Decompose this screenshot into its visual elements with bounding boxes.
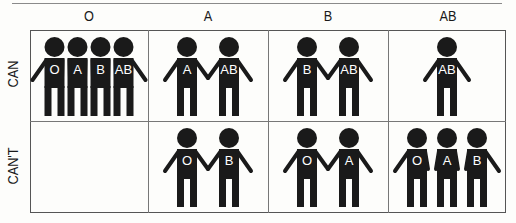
- person-figure: AB: [328, 37, 371, 116]
- blood-type-label: AB: [115, 62, 132, 77]
- head-icon: [407, 128, 427, 148]
- person-figure: O: [285, 128, 328, 207]
- row-header-can: CAN: [4, 49, 22, 100]
- person-figure: O: [165, 128, 208, 207]
- head-icon: [177, 37, 197, 57]
- cell-can-b: BAB: [268, 30, 388, 121]
- blood-type-label: O: [302, 153, 312, 168]
- cell-cant-b: OA: [268, 121, 388, 212]
- column-header-o: O: [39, 7, 139, 24]
- person-figure: AB: [208, 37, 251, 116]
- head-icon: [467, 128, 487, 148]
- blood-type-label: B: [303, 62, 312, 77]
- head-icon: [339, 37, 359, 57]
- head-icon: [297, 128, 317, 148]
- person-figure: A: [328, 128, 371, 207]
- person-figure: B: [208, 128, 251, 207]
- head-icon: [68, 37, 88, 57]
- person-figure: A: [68, 37, 88, 116]
- blood-type-label: O: [49, 62, 59, 77]
- cell-can-a: AAB: [148, 30, 268, 121]
- cell-can-ab: AB: [388, 30, 506, 121]
- head-icon: [114, 37, 134, 57]
- person-figure: A: [436, 128, 458, 207]
- blood-type-label: O: [182, 153, 192, 168]
- person-figure: B: [285, 37, 328, 116]
- head-icon: [437, 37, 457, 57]
- person-figure: AB: [114, 37, 146, 116]
- head-icon: [437, 128, 457, 148]
- blood-type-label: A: [345, 153, 354, 168]
- blood-type-label: B: [96, 62, 105, 77]
- head-icon: [91, 37, 111, 57]
- person-figure: O: [33, 37, 65, 116]
- blood-type-label: B: [225, 153, 234, 168]
- blood-type-label: AB: [220, 62, 237, 77]
- cell-cant-ab: OAB: [388, 121, 506, 212]
- row-header-cant: CAN'T: [4, 141, 22, 192]
- head-icon: [219, 128, 239, 148]
- head-icon: [339, 128, 359, 148]
- head-icon: [297, 37, 317, 57]
- blood-type-label: B: [473, 153, 482, 168]
- head-icon: [45, 37, 65, 57]
- cell-cant-o: [30, 121, 148, 212]
- head-icon: [177, 128, 197, 148]
- cell-cant-a: OB: [148, 121, 268, 212]
- person-figure: A: [165, 37, 208, 116]
- person-figure: AB: [425, 37, 469, 116]
- cell-can-o: OABAB: [30, 30, 148, 121]
- blood-type-label: A: [183, 62, 192, 77]
- head-icon: [219, 37, 239, 57]
- top-rule: [12, 3, 502, 4]
- blood-type-label: AB: [340, 62, 357, 77]
- person-figure: B: [466, 128, 499, 207]
- person-figure: O: [395, 128, 428, 207]
- column-header-ab: AB: [398, 7, 498, 24]
- column-header-a: A: [158, 7, 258, 24]
- blood-type-label: A: [73, 62, 82, 77]
- column-header-b: B: [278, 7, 378, 24]
- person-figure: B: [91, 37, 111, 116]
- blood-type-label: O: [412, 153, 422, 168]
- blood-type-label: AB: [438, 62, 455, 77]
- blood-type-label: A: [443, 153, 452, 168]
